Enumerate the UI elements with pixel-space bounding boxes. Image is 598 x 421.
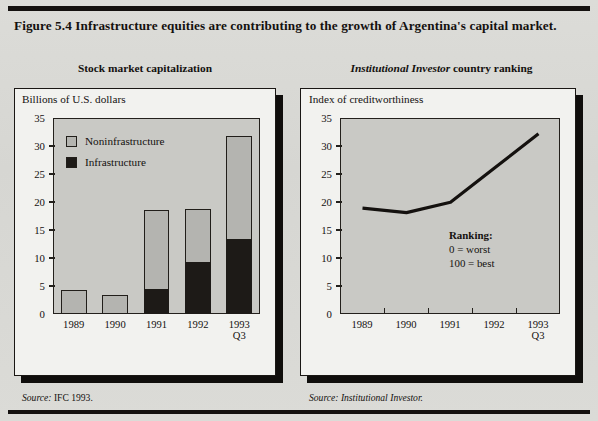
left-chart-legend: Noninfrastructure Infrastructure <box>66 135 165 177</box>
legend-swatch-noninfrastructure-icon <box>66 136 77 147</box>
y-axis-tick-label: 25 <box>13 168 45 180</box>
y-axis-tick-label: 5 <box>13 280 45 292</box>
y-axis-tick-label: 30 <box>13 140 45 152</box>
y-axis-tick-label: 0 <box>300 308 332 320</box>
bar-segment-infrastructure <box>226 239 252 314</box>
right-chart-title-rest: country ranking <box>450 62 532 74</box>
ranking-annotation: Ranking: 0 = worst 100 = best <box>449 228 494 270</box>
bar-segment-infrastructure <box>185 262 211 314</box>
y-axis-tick-mark <box>49 201 55 202</box>
left-source-text: IFC 1993. <box>51 392 92 403</box>
y-axis-tick-label: 10 <box>300 252 332 264</box>
y-axis-tick-mark <box>336 145 342 146</box>
bottom-rule <box>8 410 590 414</box>
x-axis-tick-label: 1993Q3 <box>209 319 269 341</box>
legend-swatch-infrastructure-icon <box>66 157 77 168</box>
x-axis-tick-mark <box>384 308 385 314</box>
creditworthiness-line-series <box>342 120 559 313</box>
right-plot-area <box>340 118 560 314</box>
y-axis-tick-mark <box>336 229 342 230</box>
x-axis-tick-mark <box>516 308 517 314</box>
right-source-label: Source: <box>309 392 338 403</box>
ranking-annotation-line1: 0 = worst <box>449 242 494 256</box>
legend-item-infrastructure: Infrastructure <box>66 156 165 168</box>
y-axis-tick-mark <box>49 229 55 230</box>
x-axis-tick-sublabel: Q3 <box>508 330 568 341</box>
legend-label-infrastructure: Infrastructure <box>85 156 146 168</box>
y-axis-tick-mark <box>49 285 55 286</box>
y-axis-tick-mark <box>49 257 55 258</box>
bar-segment-noninfrastructure <box>102 295 128 314</box>
y-axis-tick-label: 10 <box>13 252 45 264</box>
y-axis-tick-label: 15 <box>300 224 332 236</box>
ranking-annotation-heading: Ranking: <box>449 228 494 242</box>
x-axis-tick-label: 1993Q3 <box>508 319 568 341</box>
y-axis-tick-label: 35 <box>300 112 332 124</box>
y-axis-tick-label: 5 <box>300 280 332 292</box>
right-source-text: Institutional Investor. <box>338 392 422 403</box>
y-axis-tick-label: 25 <box>300 168 332 180</box>
y-axis-tick-mark <box>336 257 342 258</box>
y-axis-tick-mark <box>336 201 342 202</box>
left-chart-title: Stock market capitalization <box>14 62 276 74</box>
left-source-label: Source: <box>22 392 51 403</box>
y-axis-tick-mark <box>336 173 342 174</box>
right-source-note: Source: Institutional Investor. <box>309 392 423 403</box>
figure-page: Figure 5.4 Infrastructure equities are c… <box>0 0 598 421</box>
x-axis-tick-mark <box>472 308 473 314</box>
y-axis-tick-label: 20 <box>300 196 332 208</box>
right-chart-title: Institutional Investor country ranking <box>300 62 583 74</box>
y-axis-tick-mark <box>336 285 342 286</box>
y-axis-tick-label: 30 <box>300 140 332 152</box>
y-axis-tick-mark <box>49 145 55 146</box>
x-axis-tick-mark <box>428 308 429 314</box>
top-rule <box>8 6 590 11</box>
x-axis-tick-sublabel: Q3 <box>209 330 269 341</box>
left-axis-caption: Billions of U.S. dollars <box>22 93 126 105</box>
bar-segment-noninfrastructure <box>61 290 87 314</box>
legend-item-noninfrastructure: Noninfrastructure <box>66 135 165 147</box>
y-axis-tick-label: 20 <box>13 196 45 208</box>
legend-label-noninfrastructure: Noninfrastructure <box>85 135 165 147</box>
right-chart-title-italic: Institutional Investor <box>351 62 451 74</box>
y-axis-tick-mark <box>49 173 55 174</box>
left-source-note: Source: IFC 1993. <box>22 392 93 403</box>
figure-title: Figure 5.4 Infrastructure equities are c… <box>14 18 586 34</box>
bar-segment-infrastructure <box>144 289 170 314</box>
y-axis-tick-label: 35 <box>13 112 45 124</box>
y-axis-tick-label: 15 <box>13 224 45 236</box>
right-axis-caption: Index of creditworthiness <box>309 93 423 105</box>
ranking-annotation-line2: 100 = best <box>449 256 494 270</box>
y-axis-tick-label: 0 <box>13 308 45 320</box>
